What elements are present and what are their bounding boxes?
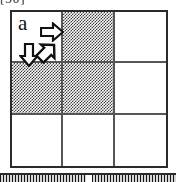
cell-r2c1[interactable]: [63, 115, 114, 166]
cell-r1c1[interactable]: [63, 63, 114, 114]
clipped-bottom-panel-strip: [0, 173, 176, 182]
bottom-strip-segment-left: [0, 173, 86, 182]
cell-r2c2[interactable]: [115, 115, 166, 166]
lattice-grid: a: [10, 10, 168, 168]
bottom-strip-segment-right: [92, 173, 176, 182]
cell-r1c0[interactable]: [12, 63, 63, 114]
figure-panel-a: [50] a: [0, 0, 176, 182]
panel-label: a: [18, 13, 27, 34]
cell-r1c2[interactable]: [115, 63, 166, 114]
cell-r2c0[interactable]: [12, 115, 63, 166]
clipped-header-text: [50]: [0, 0, 24, 4]
cell-r0c2[interactable]: [115, 12, 166, 63]
cell-r0c1[interactable]: [63, 12, 114, 63]
